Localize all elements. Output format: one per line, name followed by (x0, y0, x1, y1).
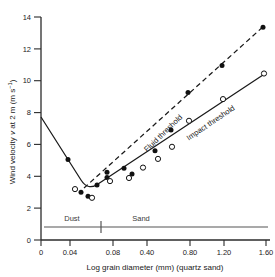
y-tick-label-14: 14 (23, 13, 31, 22)
x-axis-title: Log grain diameter (mm) (quartz sand) (87, 263, 224, 272)
data-point-filled (122, 166, 127, 171)
data-point-open (220, 97, 225, 102)
data-point-open (140, 165, 145, 170)
x-tick-label-080: 0.80 (183, 248, 198, 257)
threshold-velocity-chart: 0 2 4 6 8 10 12 14 0 0.04 0.08 0.40 0.80… (0, 0, 275, 277)
impact-threshold-curve (41, 73, 266, 187)
y-tick-label-6: 6 (27, 140, 31, 149)
svg-text:Wind velocity v at 2 m (m s−1): Wind velocity v at 2 m (m s−1) (7, 79, 17, 184)
data-point-open (89, 195, 94, 200)
data-point-filled (261, 25, 266, 30)
y-axis-title: Wind velocity v at 2 m (m s−1) (7, 79, 17, 184)
axes (41, 17, 270, 240)
x-tick-label-040: 0.40 (140, 248, 155, 257)
y-tick-label-2: 2 (27, 204, 31, 213)
data-point-open (169, 144, 174, 149)
y-axis-title-mid: at 2 m (m s (8, 89, 17, 131)
data-point-filled (220, 63, 225, 68)
data-point-filled (95, 183, 100, 188)
data-point-open (126, 175, 131, 180)
y-tick-label-12: 12 (23, 45, 31, 54)
y-tick-label-4: 4 (27, 172, 31, 181)
y-axis-ticks: 0 2 4 6 8 10 12 14 (23, 13, 41, 245)
data-point-open (186, 118, 191, 123)
y-axis-title-post: ) (8, 79, 17, 82)
x-tick-label-008: 0.08 (106, 248, 121, 257)
dust-zone-label: Dust (64, 214, 80, 223)
data-point-open (72, 187, 77, 192)
data-point-filled (186, 90, 191, 95)
sand-zone-label: Sand (132, 214, 150, 223)
x-tick-label-160: 1.60 (259, 248, 274, 257)
data-point-open (155, 156, 160, 161)
data-point-open (261, 71, 266, 76)
y-tick-label-8: 8 (27, 108, 31, 117)
grain-size-zone-bar: Dust Sand (44, 214, 268, 233)
y-tick-label-10: 10 (23, 76, 31, 85)
data-point-filled (66, 157, 71, 162)
x-tick-label-120: 1.20 (217, 248, 232, 257)
data-point-filled (105, 170, 110, 175)
data-point-filled (79, 190, 84, 195)
chart-container: 0 2 4 6 8 10 12 14 0 0.04 0.08 0.40 0.80… (0, 0, 275, 277)
y-axis-title-pre: Wind velocity (8, 135, 17, 184)
x-tick-label-0: 0 (39, 248, 43, 257)
fluid-threshold-annotation: Fluid threshold (142, 113, 184, 154)
x-tick-label-004: 0.04 (63, 248, 78, 257)
y-tick-label-0: 0 (27, 236, 31, 245)
fluid-threshold-curve (84, 25, 265, 188)
x-axis-ticks: 0 0.04 0.08 0.40 0.80 1.20 1.60 (39, 240, 273, 257)
data-point-open (107, 179, 112, 184)
